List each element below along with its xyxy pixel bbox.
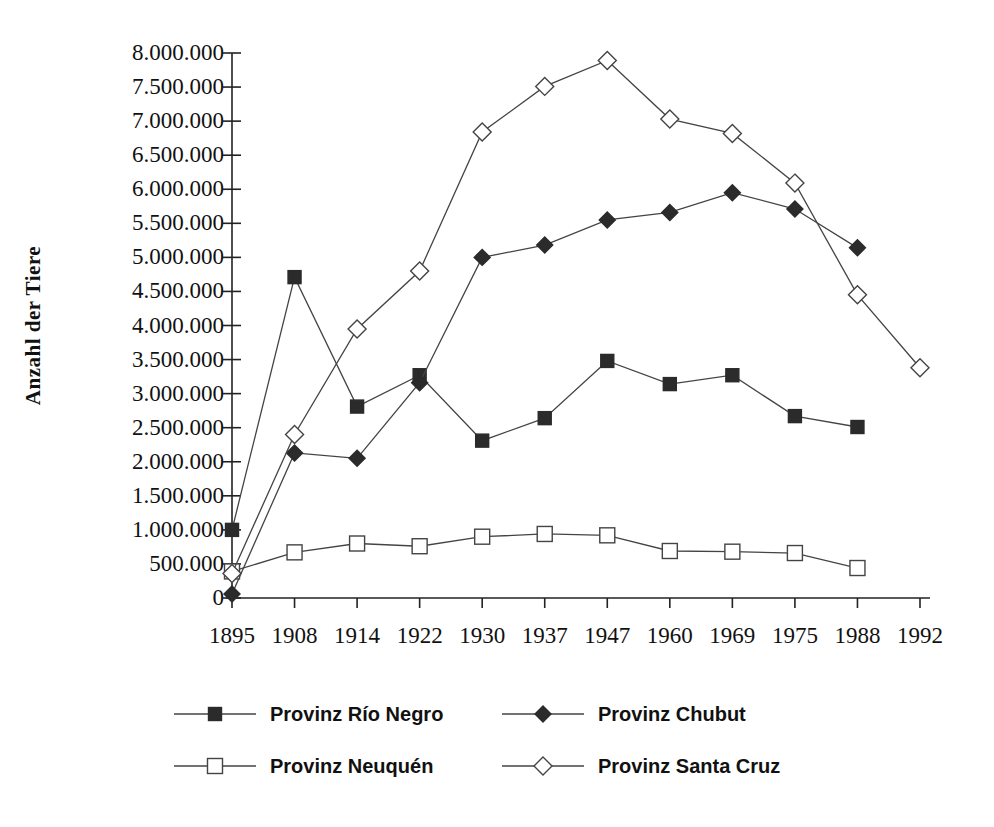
legend-item-label: Provinz Río Negro: [270, 703, 443, 726]
data-point-marker: [850, 561, 865, 576]
data-point-marker: [786, 174, 804, 192]
legend-item-label: Provinz Neuquén: [270, 755, 433, 778]
data-point-marker: [475, 529, 490, 544]
legend-item[interactable]: Provinz Río Negro: [150, 688, 480, 740]
data-point-marker: [473, 123, 491, 141]
data-point-marker: [226, 523, 239, 536]
series-line: [232, 277, 857, 530]
axes: [223, 53, 930, 608]
legend-item-label: Provinz Santa Cruz: [598, 755, 780, 778]
data-point-marker: [535, 706, 551, 722]
legend-item-label: Provinz Chubut: [598, 703, 746, 726]
data-point-marker: [788, 410, 801, 423]
data-point-marker: [474, 249, 490, 265]
legend-item[interactable]: Provinz Chubut: [480, 688, 810, 740]
data-point-marker: [287, 545, 302, 560]
data-point-marker: [848, 286, 866, 304]
data-point-marker: [534, 757, 552, 775]
data-point-marker: [286, 426, 304, 444]
data-point-marker: [600, 528, 615, 543]
data-point-marker: [538, 412, 551, 425]
series-4: [223, 51, 929, 582]
data-point-marker: [351, 400, 364, 413]
data-point-marker: [726, 369, 739, 382]
data-point-marker: [724, 185, 740, 201]
data-point-marker: [725, 544, 740, 559]
data-point-marker: [537, 237, 553, 253]
legend-marker-filled-diamond-icon: [500, 704, 586, 724]
series-1: [226, 271, 864, 537]
data-point-marker: [723, 124, 741, 142]
data-point-marker: [663, 378, 676, 391]
data-point-marker: [476, 434, 489, 447]
data-point-marker: [224, 586, 240, 602]
legend-item[interactable]: Provinz Neuquén: [150, 740, 480, 792]
chart-legend: Provinz Río NegroProvinz ChubutProvinz N…: [150, 688, 870, 792]
data-point-marker: [288, 271, 301, 284]
data-point-marker: [537, 526, 552, 541]
data-point-marker: [412, 539, 427, 554]
data-point-marker: [787, 546, 802, 561]
legend-marker-filled-square-icon: [172, 704, 258, 724]
series-3: [225, 526, 865, 578]
data-point-marker: [851, 421, 864, 434]
data-point-marker: [662, 543, 677, 558]
data-point-marker: [350, 536, 365, 551]
data-point-marker: [349, 450, 365, 466]
legend-marker-open-square-icon: [172, 756, 258, 776]
data-point-marker: [208, 759, 223, 774]
data-point-marker: [536, 77, 554, 95]
series-line: [232, 60, 920, 573]
data-point-marker: [787, 201, 803, 217]
legend-item[interactable]: Provinz Santa Cruz: [480, 740, 810, 792]
legend-marker-open-diamond-icon: [500, 756, 586, 776]
line-chart: Anzahl der Tiere 8.000.0007.500.0007.000…: [0, 0, 994, 827]
data-point-marker: [599, 212, 615, 228]
data-point-marker: [849, 240, 865, 256]
data-point-marker: [911, 359, 929, 377]
data-point-marker: [601, 354, 614, 367]
data-point-marker: [662, 204, 678, 220]
data-point-marker: [209, 708, 222, 721]
